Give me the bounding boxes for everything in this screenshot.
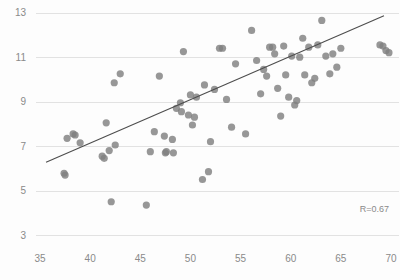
data-point [178,108,185,115]
data-point [199,176,206,183]
y-tick-label-9: 9 [20,96,26,107]
data-point [253,57,260,64]
data-point [143,201,150,208]
y-tick-label-7: 7 [20,141,26,152]
data-point [277,113,284,120]
data-point [322,52,329,59]
data-point [282,71,289,78]
data-point [301,71,308,78]
data-point [72,131,79,138]
data-point [326,70,333,77]
data-point [180,48,187,55]
data-point [106,147,113,154]
data-point [205,168,212,175]
data-point [219,45,226,52]
data-point [101,155,108,162]
y-tick-label-3: 3 [20,230,26,241]
data-point [280,42,287,49]
data-point [293,97,300,104]
x-tick-label-65: 65 [335,253,347,264]
y-tick-label-5: 5 [20,185,26,196]
data-point [163,148,170,155]
data-point [333,64,340,71]
data-point [156,72,163,79]
data-point [169,136,176,143]
data-point [228,124,235,131]
data-point [151,128,158,135]
data-point [223,96,230,103]
data-point [299,35,306,42]
data-point [201,81,208,88]
data-point [311,75,318,82]
data-point [112,141,119,148]
data-point [108,198,115,205]
x-tick-label-45: 45 [135,253,147,264]
x-tick-label-70: 70 [385,253,397,264]
data-point [329,50,336,57]
x-tick-label-50: 50 [185,253,197,264]
data-point [189,121,196,128]
data-point [263,72,270,79]
data-point [62,171,69,178]
x-tick-label-40: 40 [85,253,97,264]
data-point [161,133,168,140]
y-tick-label-13: 13 [15,7,27,18]
data-point [191,114,198,121]
data-point [318,17,325,24]
data-point [296,54,303,61]
correlation-annotation: R=0.67 [360,204,389,214]
x-tick-label-60: 60 [285,253,297,264]
data-point [269,44,276,51]
scatter-plot-screenshot: 35791113 3540455055606570 R=0.67 [0,0,400,280]
data-point [111,79,118,86]
data-point [77,139,84,146]
data-point [271,50,278,57]
data-point [103,119,110,126]
data-point [285,94,292,101]
data-point [274,85,281,92]
data-point [337,45,344,52]
y-tick-label-11: 11 [16,52,27,63]
data-point [232,60,239,67]
annotations: R=0.67 [360,204,389,214]
data-point [385,49,392,56]
data-point [207,138,214,145]
data-point [170,149,177,156]
data-point [64,135,71,142]
plot-background [0,0,400,280]
scatter-plot-figure: 35791113 3540455055606570 R=0.67 [0,0,400,280]
x-tick-label-55: 55 [235,253,247,264]
data-point [147,148,154,155]
data-point [257,90,264,97]
data-point [242,130,249,137]
data-point [248,27,255,34]
data-point [117,70,124,77]
x-tick-label-35: 35 [34,253,46,264]
